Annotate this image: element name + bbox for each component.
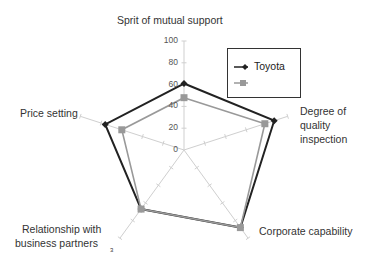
tick-label: 80 <box>154 57 178 67</box>
tick-label: 40 <box>154 100 178 110</box>
axis-label-price-setting: Price setting <box>20 107 78 120</box>
legend-markers-icon <box>228 49 300 97</box>
axis-label-quality-inspection-2: quality <box>300 119 330 132</box>
axis-label-mutual-support: Sprit of mutual support <box>117 14 223 27</box>
tick-label: 60 <box>154 79 178 89</box>
axis-label-quality-inspection-1: Degree of <box>300 105 346 118</box>
tick-label: 20 <box>154 122 178 132</box>
axis-label-corporate-capability: Corporate capability <box>259 225 352 238</box>
legend: Toyota <box>227 48 301 98</box>
axis-label-quality-inspection-3: inspection <box>300 133 347 146</box>
stray-label: 3 <box>110 244 113 257</box>
axis-label-relationship-2: business partners <box>15 237 98 250</box>
legend-item-toyota: Toyota <box>254 60 285 72</box>
tick-label: 100 <box>154 35 178 45</box>
axis-label-relationship-1: Relationship with <box>22 223 101 236</box>
tick-label: 0 <box>154 144 178 154</box>
